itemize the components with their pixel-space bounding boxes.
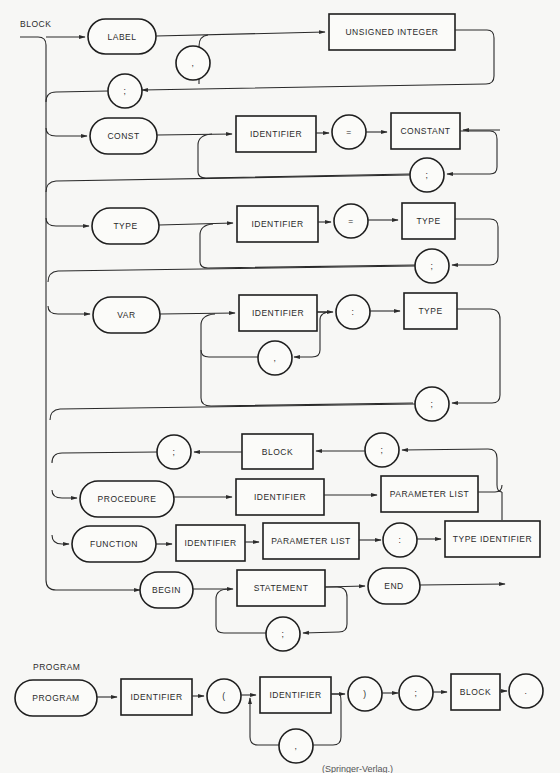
label-to-uint-line [156,32,325,36]
label-semicolon: ; [124,86,127,96]
close-paren: ) [363,689,366,699]
statement-label: STATEMENT [254,583,309,593]
const-exit-line [46,175,410,192]
const-entry-line [46,128,87,136]
const-semicolon: ; [426,170,429,180]
procedure-params: PARAMETER LIST [390,489,470,499]
begin-row: BEGIN STATEMENT ; END [140,568,505,651]
unsigned-integer-label: UNSIGNED INTEGER [345,27,438,37]
type-semicolon: ; [431,261,434,271]
var-comma: , [274,353,277,363]
function-entry-line [52,535,69,544]
program-diagram: PROGRAM IDENTIFIER ( IDENTIFIER , ) ; BL… [15,674,543,763]
subprogram-semicolon-left: ; [173,447,176,457]
function-keyword: FUNCTION [90,539,138,549]
open-paren: ( [222,691,225,701]
const-row: CONST IDENTIFIER = CONSTANT ; [46,113,500,192]
const-to-ident-line [157,134,232,135]
program-semicolon: ; [415,688,418,698]
block-title: BLOCK [20,19,51,29]
const-equals: = [346,127,351,137]
program-title: PROGRAM [33,662,80,672]
type-identifier: IDENTIFIER [251,219,303,229]
type-equals: = [348,216,353,226]
program-keyword: PROGRAM [32,693,79,703]
var-return-line [452,309,500,403]
program-comma: , [295,741,298,751]
function-params: PARAMETER LIST [271,536,351,546]
block-exit-arrow [420,584,505,585]
var-outer-loop [201,350,413,406]
constant-label: CONSTANT [400,126,450,136]
var-entry-line [48,306,90,314]
var-semicolon: ; [431,399,434,409]
begin-keyword: BEGIN [152,585,181,595]
type-return-line [452,219,498,265]
function-identifier: IDENTIFIER [184,538,236,548]
var-colon: : [352,307,355,317]
statement-semicolon: ; [282,629,285,639]
const-keyword: CONST [107,131,139,141]
var-identifier: IDENTIFIER [252,308,304,318]
var-keyword: VAR [117,310,135,320]
subprogram-semicolon-right: ; [381,445,384,455]
program-block: BLOCK [460,687,491,697]
statement-to-end-line [325,586,365,587]
var-to-ident-line [160,313,235,314]
type-to-ident-line [159,223,233,225]
procedure-exit-line [478,485,502,492]
type-exit-line [48,266,415,282]
type-identifier-label: TYPE IDENTIFIER [453,534,532,544]
figure-caption: (Springer-Verlag.) [322,764,393,773]
file-identifier: IDENTIFIER [269,690,321,700]
function-row: FUNCTION IDENTIFIER PARAMETER LIST : TYP… [52,521,540,562]
program-identifier: IDENTIFIER [130,692,182,702]
var-exit-line [50,404,415,420]
label-row: LABEL UNSIGNED INTEGER , ; [46,14,494,108]
end-keyword: END [384,581,403,591]
var-type: TYPE [418,306,442,316]
syntax-diagram: BLOCK LABEL UNSIGNED INTEGER , ; CONST I… [0,0,560,773]
type-entry-line [46,218,89,226]
subprogram-block: BLOCK [262,447,293,457]
var-row: VAR IDENTIFIER , : TYPE ; [48,293,500,421]
label-exit-line [46,91,108,102]
procedure-identifier: IDENTIFIER [254,492,306,502]
const-identifier: IDENTIFIER [250,129,302,139]
type-keyword: TYPE [113,221,137,231]
subprogram-exit-line [52,452,157,463]
procedure-row: PROCEDURE IDENTIFIER PARAMETER LIST [52,476,502,517]
label-keyword: LABEL [108,32,137,42]
type-value: TYPE [416,216,440,226]
procedure-keyword: PROCEDURE [98,494,157,504]
type-row: TYPE IDENTIFIER = TYPE ; [46,203,498,283]
period: . [525,686,528,696]
function-colon: : [399,535,402,545]
label-comma: , [192,58,195,68]
procedure-entry-line [52,490,77,498]
